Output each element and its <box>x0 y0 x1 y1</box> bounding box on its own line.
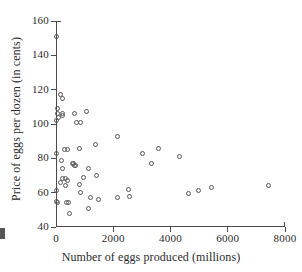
y-axis-title: Price of eggs per dozen (in cents) <box>9 19 23 219</box>
data-point <box>115 134 120 139</box>
y-axis-tick <box>51 124 56 125</box>
x-axis-tick-label: 8000 <box>262 233 302 244</box>
data-point <box>93 142 98 147</box>
data-point <box>127 194 132 199</box>
data-point <box>67 211 72 216</box>
data-point <box>156 146 161 151</box>
x-axis-tick-label: 0 <box>33 233 79 244</box>
y-axis-tick <box>51 89 56 90</box>
data-point <box>140 151 145 156</box>
x-axis-tick-label: 2000 <box>90 233 136 244</box>
data-point <box>78 120 83 125</box>
x-axis-tick-label: 6000 <box>205 233 251 244</box>
data-point <box>59 158 64 163</box>
data-point <box>58 180 63 185</box>
x-axis-tick-label: 4000 <box>148 233 194 244</box>
x-axis-title: Number of eggs produced (millions) <box>0 250 302 264</box>
data-point <box>96 197 101 202</box>
y-axis-tick <box>51 158 56 159</box>
data-point <box>65 147 70 152</box>
scatter-plot-figure: 406080100120140160 02000400060008000 Num… <box>0 0 302 272</box>
y-axis-top-cap <box>56 21 61 22</box>
y-axis-tick-label: 40 <box>5 221 49 232</box>
data-point <box>77 146 82 151</box>
y-axis-tick <box>51 21 56 22</box>
y-axis-tick <box>51 227 56 228</box>
data-point <box>60 96 65 101</box>
data-point <box>77 182 82 187</box>
data-point <box>177 154 182 159</box>
data-point <box>72 111 77 116</box>
y-axis-tick <box>51 55 56 56</box>
data-point <box>86 206 91 211</box>
data-point <box>73 163 78 168</box>
data-point <box>209 185 214 190</box>
data-point <box>81 175 86 180</box>
